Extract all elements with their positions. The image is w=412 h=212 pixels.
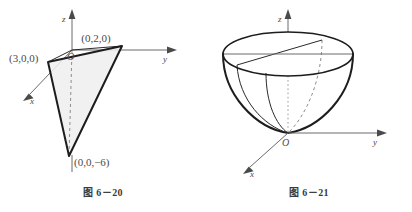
y-axis-arrowhead [377,130,387,137]
figure-panel-right: z y x O 图 6－21 [206,0,412,212]
figure-caption-right: 图 6－21 [206,184,412,199]
y-axis-arrowhead [167,47,177,54]
vertex-label-z-intercept: (0,0,−6) [74,156,110,169]
z-axis-label: z [277,14,282,24]
y-axis-group [288,130,387,137]
vertex-label-x-intercept: (3,0,0) [9,52,39,65]
y-axis-group [72,47,177,54]
origin-label: O [67,51,74,62]
figure-6-21-drawing: z y x O [206,0,412,186]
origin-label: O [282,137,289,148]
x-axis-label: x [249,169,254,179]
y-axis-label: y [162,54,167,64]
z-axis-arrowhead [285,9,292,19]
figure-panel-left: z y x O (0,2,0) (3,0,0) (0,0,−6) 图 6－20 [0,0,206,212]
figure-6-20-drawing: z y x O (0,2,0) (3,0,0) (0,0,−6) [0,0,206,186]
figure-sheet: z y x O (0,2,0) (3,0,0) (0,0,−6) 图 6－20 [0,0,412,212]
figure-caption-left: 图 6－20 [0,184,206,199]
z-axis-label: z [61,14,66,24]
vertex-label-y-intercept: (0,2,0) [81,32,111,45]
z-axis-arrowhead [69,9,76,19]
y-axis-label: y [372,137,377,147]
triangle-face-shading [48,46,122,156]
x-axis-label: x [29,96,34,106]
